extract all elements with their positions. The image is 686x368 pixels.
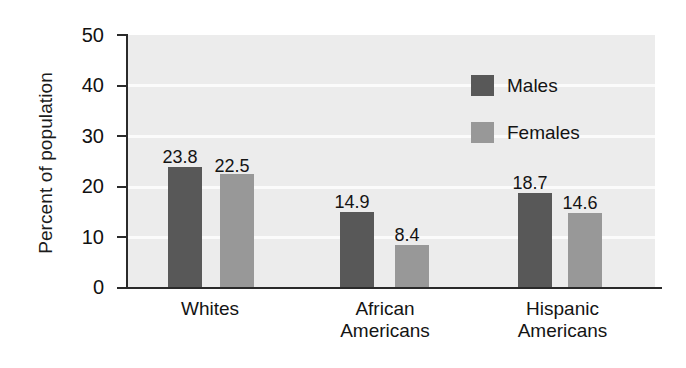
value-label-hispanic-americans-females: 14.6: [545, 194, 615, 212]
legend-item-males: Males: [471, 75, 558, 96]
y-tick-label-30: 30: [58, 126, 104, 146]
y-tick-label-20: 20: [58, 176, 104, 196]
bar-african-americans-females: [395, 245, 429, 287]
category-label-hispanic-americans: Hispanic Americans: [495, 298, 630, 343]
y-tick-mark-30: [117, 135, 126, 137]
value-label-hispanic-americans-males: 18.7: [495, 174, 565, 192]
value-label-whites-females: 22.5: [197, 157, 267, 175]
legend-label-females: Females: [507, 123, 580, 142]
bar-chart: Percent of population 50 40 30 20 10 0 M…: [0, 0, 686, 368]
y-axis-line: [126, 34, 128, 288]
y-tick-mark-40: [117, 85, 126, 87]
gridline-20: [128, 186, 655, 189]
gridline-40: [128, 84, 655, 87]
value-label-african-americans-males: 14.9: [317, 193, 387, 211]
x-axis-line: [117, 287, 662, 289]
y-tick-label-0: 0: [58, 277, 104, 297]
bar-whites-females: [220, 174, 254, 287]
y-tick-label-50: 50: [58, 25, 104, 45]
bar-whites-males: [168, 167, 202, 287]
bar-african-americans-males: [340, 212, 374, 287]
category-label-african-americans: African Americans: [320, 298, 450, 343]
y-tick-mark-10: [117, 236, 126, 238]
legend-item-females: Females: [471, 122, 580, 143]
legend-swatch-females-icon: [471, 122, 494, 143]
value-label-african-americans-females: 8.4: [372, 226, 442, 244]
category-label-whites: Whites: [150, 298, 270, 320]
y-tick-label-10: 10: [58, 227, 104, 247]
y-tick-mark-50: [117, 34, 126, 36]
y-tick-label-40: 40: [58, 75, 104, 95]
legend-label-males: Males: [507, 76, 558, 95]
y-axis-title: Percent of population: [35, 33, 57, 293]
y-tick-mark-20: [117, 186, 126, 188]
legend-swatch-males-icon: [471, 75, 494, 96]
bar-hispanic-americans-females: [568, 213, 602, 287]
